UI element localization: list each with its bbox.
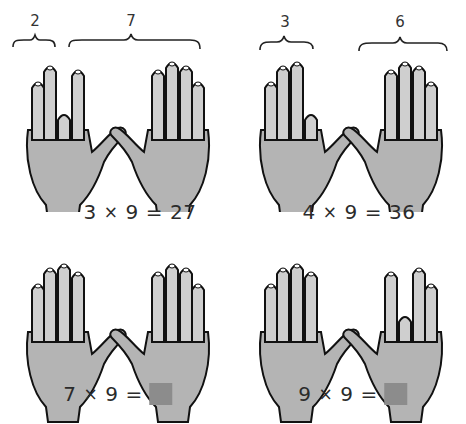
fingernail: [428, 284, 434, 288]
finger: [265, 83, 277, 140]
fingernail: [155, 272, 161, 276]
panel-9x9: 9 × 9 =: [233, 212, 466, 424]
folded-finger: [305, 115, 317, 140]
finger: [180, 67, 192, 140]
fingernail: [35, 284, 41, 288]
hands-illustration: [0, 0, 233, 212]
finger: [291, 63, 303, 140]
fingernail: [388, 70, 394, 74]
fingernail: [75, 70, 81, 74]
folded-finger: [399, 317, 411, 342]
finger: [277, 67, 289, 140]
fingernail: [183, 268, 189, 272]
finger: [180, 269, 192, 342]
equation-b: 9: [105, 382, 118, 406]
fingernail: [308, 272, 314, 276]
fingernail: [294, 62, 300, 66]
finger: [152, 273, 164, 342]
fingernail: [428, 82, 434, 86]
equation: 9 × 9 =: [298, 382, 407, 406]
panel-7x9: 7 × 9 =: [0, 212, 233, 424]
finger: [152, 71, 164, 140]
fingernail: [280, 66, 286, 70]
finger: [72, 71, 84, 140]
fingernail: [35, 82, 41, 86]
fingernail: [416, 66, 422, 70]
left-hand: [27, 66, 126, 212]
left-hand: [260, 62, 359, 212]
fingernail: [268, 284, 274, 288]
equals-sign: =: [125, 382, 142, 406]
finger: [166, 265, 178, 342]
finger: [192, 83, 204, 140]
finger: [44, 67, 56, 140]
right-hand: [343, 62, 442, 212]
finger: [425, 285, 437, 342]
finger: [385, 71, 397, 140]
finger: [192, 285, 204, 342]
finger: [425, 83, 437, 140]
folded-finger: [58, 115, 70, 140]
times-sign: ×: [83, 384, 98, 404]
fingernail: [402, 62, 408, 66]
fingernail: [183, 66, 189, 70]
finger: [32, 83, 44, 140]
right-hand: [110, 62, 209, 212]
palm: [343, 330, 442, 422]
equation: 7 × 9 =: [63, 382, 172, 406]
palm: [110, 330, 209, 422]
panel-4x9: 3 6 4 × 9 = 36: [233, 0, 466, 212]
fingernail: [195, 284, 201, 288]
finger: [265, 285, 277, 342]
answer-box: [150, 383, 173, 405]
finger: [72, 273, 84, 342]
finger: [32, 285, 44, 342]
fingernail: [155, 70, 161, 74]
fingernail: [268, 82, 274, 86]
fingernail: [61, 264, 67, 268]
finger: [277, 269, 289, 342]
fingernail: [75, 272, 81, 276]
fingernail: [47, 268, 53, 272]
finger: [413, 269, 425, 342]
times-sign: ×: [318, 384, 333, 404]
finger: [413, 67, 425, 140]
palm: [260, 330, 359, 422]
fingernail: [169, 264, 175, 268]
finger: [166, 63, 178, 140]
panel-3x9: 2 7 3 × 9 = 27: [0, 0, 233, 212]
equals-sign: =: [360, 382, 377, 406]
answer-box: [385, 383, 408, 405]
hands-illustration: [233, 0, 466, 212]
fingernail: [294, 264, 300, 268]
finger: [305, 273, 317, 342]
equation-a: 7: [63, 382, 76, 406]
finger: [399, 63, 411, 140]
equation-a: 9: [298, 382, 311, 406]
fingernail: [195, 82, 201, 86]
finger: [58, 265, 70, 342]
finger: [385, 273, 397, 342]
fingernail: [47, 66, 53, 70]
equation-b: 9: [340, 382, 353, 406]
fingernail: [416, 268, 422, 272]
palm: [27, 330, 126, 422]
finger: [44, 269, 56, 342]
fingernail: [280, 268, 286, 272]
fingernail: [388, 272, 394, 276]
finger: [291, 265, 303, 342]
fingernail: [169, 62, 175, 66]
